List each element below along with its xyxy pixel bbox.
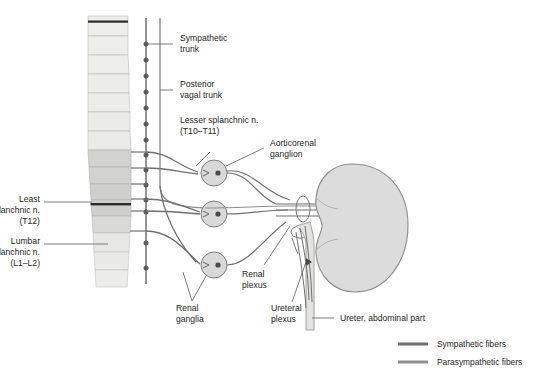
label-lesser-splanchnic: Lesser splanchnic n. (T10–T11) [180,115,258,136]
legend-item-parasympathetic: Parasympathetic fibers [398,357,522,367]
label-least-splanchnic-line1: Least [19,194,41,204]
renal-artery-plexus-ring [296,196,310,222]
lesser-splanchnic-nerve [146,152,198,172]
label-least-splanchnic-line3: (T12) [19,216,40,226]
legend-label-sympathetic: Sympathetic fibers [437,339,506,349]
label-ureteral-plexus: Ureteral plexus [271,303,302,324]
renal-ganglion-middle [201,201,227,227]
label-ureteral-plexus-line2: plexus [271,314,296,324]
label-ureter-line1: Ureter, abdominal part [340,313,426,323]
spinal-rami [130,152,146,231]
sympathetic-trunk [144,18,149,284]
label-lumbar-splanchnic-line2: splanchnic n. [0,247,40,257]
leader-renal-plexus [264,226,290,265]
label-least-splanchnic-line2: splanchnic n. [0,205,40,215]
label-ureter: Ureter, abdominal part [340,313,426,323]
label-posterior-vagal-trunk: Posterior vagal trunk [180,79,223,100]
label-posterior-vagal-trunk-line1: Posterior [180,79,215,89]
label-least-splanchnic: Least splanchnic n. (T12) [0,194,41,226]
label-aorticorenal-ganglion: Aorticorenal ganglion [270,138,316,159]
leader-aorticorenal [226,148,264,166]
legend-item-sympathetic: Sympathetic fibers [398,339,506,349]
label-renal-ganglia-line2: ganglia [176,314,204,324]
label-ureteral-plexus-line1: Ureteral [271,303,302,313]
label-lesser-splanchnic-line2: (T10–T11) [180,126,220,136]
splanchnic-nerves [146,152,200,264]
label-renal-plexus-line2: plexus [242,280,267,290]
leader-renal-ganglia-b [183,272,192,301]
renal-ganglion-lower [201,252,227,278]
label-sympathetic-trunk-line2: trunk [180,44,200,54]
label-renal-ganglia: Renal ganglia [176,303,204,324]
least-splanchnic-nerve [146,199,200,212]
leader-ureteral-plexus [292,262,306,302]
label-aorticorenal-line1: Aorticorenal [270,138,316,148]
label-posterior-vagal-trunk-line2: vagal trunk [180,90,223,100]
legend-label-parasympathetic: Parasympathetic fibers [437,357,522,367]
vertebra-band-upper [88,21,128,23]
lumbar-splanchnic-nerve [146,231,200,264]
diagram-canvas: Sympathetic trunk Posterior vagal trunk … [0,0,535,382]
label-renal-plexus-line1: Renal [242,269,265,279]
label-lesser-splanchnic-line1: Lesser splanchnic n. [180,115,258,125]
aorticorenal-ganglion [201,160,227,186]
label-renal-ganglia-line1: Renal [176,303,199,313]
label-sympathetic-trunk-line1: Sympathetic [180,33,228,43]
label-lumbar-splanchnic-line1: Lumbar [11,236,40,246]
label-renal-plexus: Renal plexus [242,269,267,290]
label-lumbar-splanchnic: Lumbar splanchnic n. (L1–L2) [0,236,40,268]
legend: Sympathetic fibers Parasympathetic fiber… [398,339,522,367]
vertebral-column [88,16,131,287]
label-lumbar-splanchnic-line3: (L1–L2) [10,258,40,268]
label-sympathetic-trunk: Sympathetic trunk [180,33,228,54]
vertebra-band-t12 [91,203,132,205]
kidney [316,164,408,292]
leader-renal-ganglia-a [192,276,206,301]
label-aorticorenal-line2: ganglion [270,149,303,159]
